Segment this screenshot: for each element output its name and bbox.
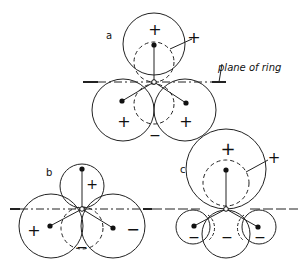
central-atom-a: [152, 80, 157, 85]
panel-label-c: c: [180, 164, 186, 175]
atom-dot: [110, 225, 115, 230]
sign-a-bottom: −: [149, 127, 161, 143]
leader-line-c: [246, 160, 268, 172]
sign-c-inner: +: [268, 149, 281, 167]
sign-c-left: −: [188, 229, 200, 245]
atom-dot: [151, 42, 156, 47]
atom-dot: [47, 223, 52, 228]
lobe-left-a: [92, 79, 154, 141]
bond-right-b: [82, 209, 113, 228]
dashed-arc-left-c: [208, 215, 215, 240]
bond-left-b: [50, 209, 82, 226]
sign-a-top: +: [148, 20, 161, 39]
sign-c-middle: −: [221, 229, 233, 245]
orbital-diagram: a b c plane of ring + + + + − + + − − + …: [0, 0, 304, 263]
sign-a-left: +: [117, 112, 130, 131]
panel-label-a: a: [106, 30, 112, 41]
bond-left-a: [122, 82, 154, 101]
bond-right-a: [154, 82, 186, 103]
central-atom-b: [80, 207, 85, 212]
atom-dot: [223, 167, 228, 172]
central-atoms: [80, 80, 229, 212]
sign-c-top: +: [220, 138, 235, 159]
sign-b-left: +: [27, 221, 40, 240]
sign-b-right: −: [126, 220, 139, 239]
sign-a-inner: +: [187, 28, 200, 47]
atom-dot: [191, 223, 196, 228]
sign-b-bottom: −: [76, 239, 88, 255]
sign-c-right: −: [254, 229, 266, 245]
sign-a-right: +: [179, 112, 192, 131]
central-atom-c: [224, 207, 229, 212]
panel-label-b: b: [46, 167, 52, 178]
atom-dot: [119, 98, 124, 103]
atom-dot: [79, 166, 84, 171]
atom-dot: [183, 100, 188, 105]
sign-b-top: +: [86, 176, 98, 192]
plane-of-ring-label: plane of ring: [217, 62, 281, 73]
